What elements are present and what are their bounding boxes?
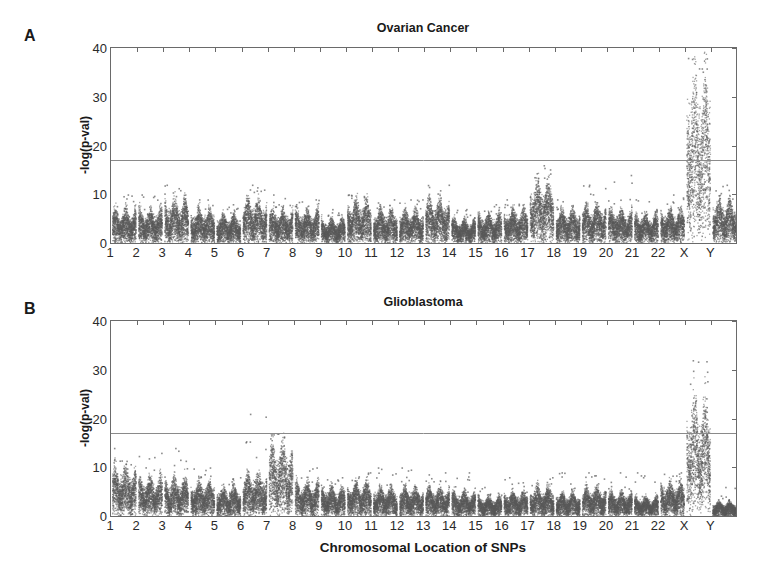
x-tick-label: 17 bbox=[520, 518, 534, 533]
x-tick-label: 9 bbox=[315, 245, 322, 260]
y-tick-label: 10 bbox=[93, 460, 110, 475]
x-tick-label: 6 bbox=[237, 245, 244, 260]
x-tick-label: 13 bbox=[416, 245, 430, 260]
x-axis-label: Chromosomal Location of SNPs bbox=[320, 540, 526, 555]
y-tick-label: 20 bbox=[93, 411, 110, 426]
y-tick-label: 20 bbox=[93, 138, 110, 153]
panel-b-title: Glioblastoma bbox=[383, 295, 462, 309]
x-tick-label: 19 bbox=[573, 245, 587, 260]
x-tick-label: Y bbox=[706, 518, 715, 533]
x-tick-label: 11 bbox=[364, 518, 378, 533]
x-tick-label: 16 bbox=[494, 245, 508, 260]
panel-b-scatter-canvas bbox=[111, 321, 736, 516]
panel-b-plot-area bbox=[110, 320, 737, 517]
panel-a-letter: A bbox=[24, 27, 36, 45]
x-tick-label: X bbox=[680, 518, 689, 533]
x-tick-label: 22 bbox=[651, 518, 665, 533]
x-tick-label: 1 bbox=[106, 518, 113, 533]
x-tick-label: 9 bbox=[315, 518, 322, 533]
x-tick-label: 2 bbox=[132, 518, 139, 533]
x-tick-label: 21 bbox=[625, 518, 639, 533]
x-tick-label: 14 bbox=[442, 518, 456, 533]
panel-a-title: Ovarian Cancer bbox=[377, 21, 469, 35]
x-tick-label: 5 bbox=[211, 245, 218, 260]
x-tick-label: 1 bbox=[106, 245, 113, 260]
x-tick-label: 7 bbox=[263, 518, 270, 533]
panel-b-y-axis-label: -log(p-val) bbox=[78, 389, 92, 447]
x-tick-label: 22 bbox=[651, 245, 665, 260]
panel-a-scatter-canvas bbox=[111, 48, 736, 243]
y-tick-label: 30 bbox=[93, 89, 110, 104]
panel-b-letter: B bbox=[24, 300, 36, 318]
x-tick-label: 19 bbox=[573, 518, 587, 533]
x-tick-label: 15 bbox=[468, 518, 482, 533]
x-tick-label: Y bbox=[706, 245, 715, 260]
x-tick-label: 10 bbox=[338, 518, 352, 533]
x-tick-label: 16 bbox=[494, 518, 508, 533]
x-tick-label: 14 bbox=[442, 245, 456, 260]
x-tick-label: 18 bbox=[546, 245, 560, 260]
x-tick-label: 10 bbox=[338, 245, 352, 260]
x-tick-label: X bbox=[680, 245, 689, 260]
x-tick-label: 2 bbox=[132, 245, 139, 260]
x-tick-label: 8 bbox=[289, 518, 296, 533]
x-tick-label: 17 bbox=[520, 245, 534, 260]
panel-a-plot-area bbox=[110, 47, 737, 244]
x-tick-label: 15 bbox=[468, 245, 482, 260]
x-tick-label: 7 bbox=[263, 245, 270, 260]
x-tick-label: 8 bbox=[289, 245, 296, 260]
x-tick-label: 4 bbox=[185, 518, 192, 533]
x-tick-label: 12 bbox=[390, 245, 404, 260]
x-tick-label: 3 bbox=[159, 518, 166, 533]
y-tick-label: 10 bbox=[93, 187, 110, 202]
x-tick-label: 21 bbox=[625, 245, 639, 260]
x-tick-label: 18 bbox=[546, 518, 560, 533]
x-tick-label: 6 bbox=[237, 518, 244, 533]
y-tick-label: 40 bbox=[93, 314, 110, 329]
panel-a-y-axis-label: -log(p-val) bbox=[78, 116, 92, 174]
x-tick-label: 3 bbox=[159, 245, 166, 260]
x-tick-label: 11 bbox=[364, 245, 378, 260]
y-tick-label: 30 bbox=[93, 362, 110, 377]
x-tick-label: 20 bbox=[599, 518, 613, 533]
x-tick-label: 12 bbox=[390, 518, 404, 533]
x-tick-label: 20 bbox=[599, 245, 613, 260]
x-tick-label: 5 bbox=[211, 518, 218, 533]
x-tick-label: 4 bbox=[185, 245, 192, 260]
x-tick-label: 13 bbox=[416, 518, 430, 533]
y-tick-label: 40 bbox=[93, 41, 110, 56]
